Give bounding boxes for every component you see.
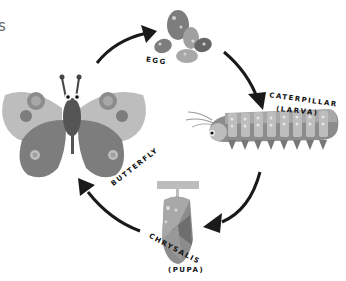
arrow-chrysalis-to-butterfly: [78, 178, 140, 231]
arrow-egg-to-caterpillar: [224, 52, 266, 110]
arrow-caterpillar-to-chrysalis: [203, 172, 260, 233]
label-chrysalis-sub: (PUPA): [168, 266, 204, 274]
life-cycle-diagram: s: [0, 0, 346, 281]
diagram-graphics: [0, 0, 346, 281]
butterfly-illustration: [2, 75, 146, 178]
eggs-illustration: [152, 10, 214, 63]
